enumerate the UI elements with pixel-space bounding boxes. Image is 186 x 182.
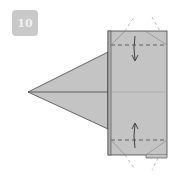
triangle-flap — [28, 52, 108, 129]
origami-diagram — [0, 0, 186, 182]
paper-rectangle — [108, 31, 167, 158]
